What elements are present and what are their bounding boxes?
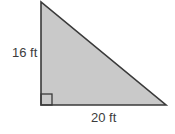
diagram-canvas: 16 ft 20 ft <box>0 0 175 134</box>
vertical-side-label: 16 ft <box>12 46 37 59</box>
right-triangle <box>41 2 166 105</box>
right-triangle-figure <box>0 0 175 134</box>
horizontal-side-label: 20 ft <box>91 111 116 124</box>
